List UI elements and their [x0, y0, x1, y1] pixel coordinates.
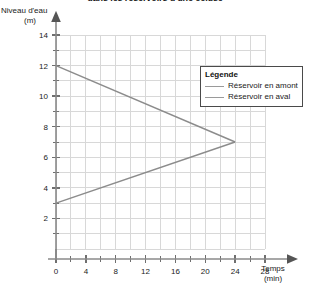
x-tick-label: 24 [231, 267, 240, 276]
legend-item-reservoir-amont: Réservoir en amont [205, 81, 298, 91]
x-axis-unit: (min) [252, 274, 294, 284]
y-tick-label: 6 [44, 153, 49, 162]
y-tick-label: 2 [44, 214, 49, 223]
legend-title: Légende [205, 70, 298, 79]
y-tick-label: 8 [44, 123, 49, 132]
legend-swatch-icon [205, 86, 224, 87]
x-tick-label: 16 [171, 267, 180, 276]
legend-item-label: Réservoir en aval [228, 92, 290, 102]
legend-swatch-icon [205, 97, 224, 98]
x-tick-label: 4 [84, 267, 89, 276]
x-tick-label: 20 [201, 267, 210, 276]
chart-container: dans les réservoirs d'une écluse Niveau … [0, 0, 310, 293]
plot-area: 24681012140481216202428 [0, 0, 310, 293]
x-axis-title-text: Temps [252, 264, 294, 274]
x-tick-label: 12 [141, 267, 150, 276]
legend-item-label: Réservoir en amont [228, 81, 298, 91]
x-tick-label: 0 [54, 267, 59, 276]
y-tick-label: 4 [44, 184, 49, 193]
x-axis-title: Temps (min) [252, 264, 294, 284]
y-tick-label: 14 [39, 31, 48, 40]
y-tick-label: 10 [39, 92, 48, 101]
y-tick-label: 12 [39, 62, 48, 71]
legend: Légende Réservoir en amont Réservoir en … [200, 66, 303, 107]
axis-lines [48, 22, 287, 259]
legend-item-reservoir-aval: Réservoir en aval [205, 92, 298, 102]
x-tick-label: 8 [113, 267, 118, 276]
